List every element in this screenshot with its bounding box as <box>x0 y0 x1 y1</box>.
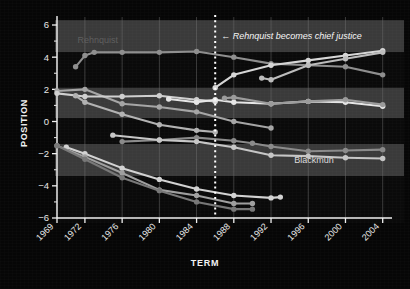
data-point-souter-1990 <box>250 141 255 146</box>
data-point-rehnquist-1973 <box>92 50 97 55</box>
data-point-powell-1972 <box>82 100 87 105</box>
xtick-label-1980: 1980 <box>137 221 158 242</box>
data-point-souter-1988 <box>231 138 236 143</box>
data-point-blackmun-1993 <box>278 194 283 199</box>
xtick-label-1992: 1992 <box>248 221 269 242</box>
data-point-kennedy-1996 <box>306 99 311 104</box>
data-point-white-1972 <box>82 87 87 92</box>
data-point-powell-1980 <box>157 122 162 127</box>
xtick-label-1984: 1984 <box>174 221 195 242</box>
xtick-label-1972: 1972 <box>62 221 83 242</box>
data-point-oconnor-1981 <box>166 96 171 101</box>
data-point-kennedy-2000 <box>343 97 348 102</box>
svg-text:1972: 1972 <box>62 221 83 242</box>
xtick-label-1988: 1988 <box>211 221 232 242</box>
data-point-marshall-1988 <box>231 201 236 206</box>
position-by-term-line-chart: −6−4−20246196919721976198019841988199219… <box>0 0 410 289</box>
data-point-brennan-1972 <box>82 157 87 162</box>
data-point-rehnquist-1971 <box>73 64 78 69</box>
data-point-scalia-1988 <box>231 72 236 77</box>
data-point-thomas-1991 <box>259 75 264 80</box>
data-point-rehnquist-1972 <box>82 53 87 58</box>
data-point-burger-1972 <box>82 94 87 99</box>
data-point-blackmun-1984 <box>194 186 199 191</box>
data-point-marshall-1990 <box>250 201 255 206</box>
data-point-scalia-1996 <box>306 58 311 63</box>
data-point-blackmun-1976 <box>119 165 124 170</box>
data-point-brennan-1980 <box>157 188 162 193</box>
data-point-thomas-2000 <box>343 56 348 61</box>
data-point-rehnquist-1984 <box>194 49 199 54</box>
data-point-blackmun-1988 <box>231 193 236 198</box>
svg-text:1980: 1980 <box>137 221 158 242</box>
data-point-blackmun-1992 <box>268 195 273 200</box>
data-point-blackmun-1980 <box>157 177 162 182</box>
data-point-stevens-2004 <box>380 156 385 161</box>
xtick-label-1969: 1969 <box>34 221 55 242</box>
xtick-label-1976: 1976 <box>99 221 120 242</box>
svg-text:2004: 2004 <box>360 221 381 242</box>
data-point-brennan-1990 <box>250 206 255 211</box>
data-point-stevens-1980 <box>157 137 162 142</box>
xtick-label-1996: 1996 <box>285 221 306 242</box>
data-point-rehnquist-1980 <box>157 50 162 55</box>
svg-text:1976: 1976 <box>99 221 120 242</box>
svg-text:1996: 1996 <box>285 221 306 242</box>
data-point-thomas-1992 <box>268 77 273 82</box>
data-point-burger-1980 <box>157 93 162 98</box>
data-point-stevens-1984 <box>194 139 199 144</box>
xtick-label-2000: 2000 <box>323 221 344 242</box>
svg-text:1969: 1969 <box>34 221 55 242</box>
data-point-kennedy-1992 <box>268 101 273 106</box>
data-point-scalia-1992 <box>268 63 273 68</box>
data-point-souter-1992 <box>268 144 273 149</box>
data-point-stevens-2000 <box>343 155 348 160</box>
data-point-brennan-1976 <box>119 175 124 180</box>
data-point-brennan-1969 <box>54 143 59 148</box>
data-point-burger-1976 <box>119 94 124 99</box>
data-point-stevens-1992 <box>268 153 273 158</box>
data-point-marshall-1984 <box>194 193 199 198</box>
data-point-powell-1976 <box>119 112 124 117</box>
svg-text:1988: 1988 <box>211 221 232 242</box>
data-point-souter-1976 <box>119 139 124 144</box>
data-point-powell-1971 <box>73 93 78 98</box>
data-point-kennedy-1988 <box>231 95 236 100</box>
data-point-white-1992 <box>268 125 273 130</box>
data-point-souter-1996 <box>306 149 311 154</box>
data-point-brennan-1988 <box>231 206 236 211</box>
data-point-thomas-2004 <box>380 50 385 55</box>
rehnquist-series-label: Rehnquist <box>77 35 118 45</box>
data-point-souter-2000 <box>343 148 348 153</box>
data-point-rehnquist-2000 <box>343 64 348 69</box>
ytick-label-0: 0 <box>44 116 49 127</box>
data-point-white-1980 <box>157 104 162 109</box>
ytick-label-6: 6 <box>44 19 49 30</box>
data-point-stevens-1988 <box>231 145 236 150</box>
ytick-label--2: −2 <box>38 148 49 159</box>
svg-text:1992: 1992 <box>248 221 269 242</box>
data-point-white-1988 <box>231 119 236 124</box>
data-point-white-1976 <box>119 101 124 106</box>
data-point-stevens-1975 <box>110 132 115 137</box>
data-point-kennedy-1987 <box>222 95 227 100</box>
blackmun-series-label: Blackmun <box>294 155 334 165</box>
data-point-thomas-1996 <box>306 63 311 68</box>
xtick-label-2004: 2004 <box>360 221 381 242</box>
data-point-powell-1984 <box>194 128 199 133</box>
data-point-rehnquist-1988 <box>231 54 236 59</box>
ytick-label-2: 2 <box>44 84 49 95</box>
ytick-label-4: 4 <box>44 52 49 63</box>
data-point-rehnquist-1976 <box>119 50 124 55</box>
data-point-oconnor-1988 <box>231 100 236 105</box>
chart-canvas: −6−4−20246196919721976198019841988199219… <box>0 0 410 289</box>
data-point-oconnor-1984 <box>194 100 199 105</box>
band-5 <box>55 176 404 223</box>
svg-text:2000: 2000 <box>323 221 344 242</box>
y-axis-label: POSITION <box>19 83 29 163</box>
x-axis-label: TERM <box>0 258 410 268</box>
data-point-brennan-1984 <box>194 199 199 204</box>
data-point-white-1984 <box>194 109 199 114</box>
data-point-rehnquist-2004 <box>380 72 385 77</box>
data-point-kennedy-2004 <box>380 102 385 107</box>
